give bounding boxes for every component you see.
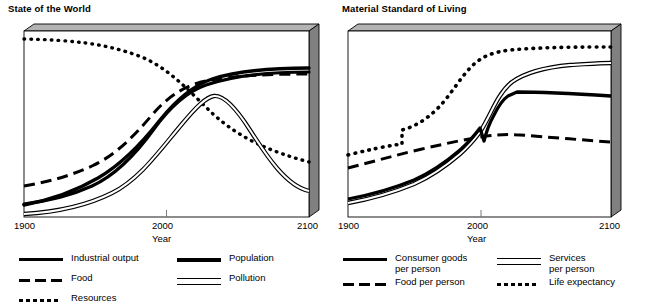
plot-box-top-face xyxy=(24,24,319,31)
legend-swatch-resources-icon xyxy=(18,294,64,305)
legend-item-population: Population xyxy=(176,252,326,272)
legend-swatch-population-icon xyxy=(176,254,222,266)
legend-label-pollution: Pollution xyxy=(229,272,265,283)
panel-state-of-the-world: State of the World xyxy=(0,0,334,305)
legend-item-services-per-person: Servicesper person xyxy=(496,252,661,276)
legend-swatch-life-expectancy-icon xyxy=(496,278,542,290)
plot-box-right-face xyxy=(611,24,621,217)
legend-right-col2: Servicesper person Life expectancy xyxy=(496,252,661,296)
legend-label-food: Food xyxy=(71,272,93,283)
legend-right: Consumer goodsper person Food per person… xyxy=(334,252,663,305)
plot-box-right-face xyxy=(309,24,319,217)
legend-label-resources: Resources xyxy=(71,292,116,303)
legend-label-population: Population xyxy=(229,252,274,263)
legend-swatch-food-per-person-icon xyxy=(342,278,388,290)
panel-material-standard-of-living: Material Standard of Living 1900 2000 21… xyxy=(334,0,663,305)
legend-left-col2: Population Pollution xyxy=(176,252,326,292)
legend-left: Industrial output Food Resources Populat… xyxy=(0,252,334,305)
xtick-label-1900-right: 1900 xyxy=(338,220,359,231)
legend-item-resources: Resources xyxy=(18,292,168,305)
legend-label-consumer-goods-line1: Consumer goods xyxy=(395,252,467,263)
legend-label-services-line2: per person xyxy=(549,263,594,274)
xtick-label-2000-right: 2000 xyxy=(467,220,488,231)
legend-item-industrial-output: Industrial output xyxy=(18,252,168,272)
legend-item-pollution: Pollution xyxy=(176,272,326,292)
xaxis-title-left: Year xyxy=(152,233,171,244)
legend-label-food-per-person: Food per person xyxy=(395,276,465,287)
xtick-label-1900-left: 1900 xyxy=(14,220,35,231)
world3-scenario-figure: State of the World xyxy=(0,0,663,305)
xtick-label-2000-left: 2000 xyxy=(152,220,173,231)
legend-label-consumer-goods-per-person: Consumer goodsper person xyxy=(395,252,467,274)
xtick-label-2100-left: 2100 xyxy=(297,220,318,231)
plot-box-top-face xyxy=(348,24,621,31)
xaxis-title-right: Year xyxy=(467,233,486,244)
legend-swatch-food-icon xyxy=(18,274,64,286)
legend-label-consumer-goods-line2: per person xyxy=(395,263,467,274)
legend-swatch-services-icon xyxy=(496,254,542,266)
legend-swatch-consumer-goods-icon xyxy=(342,254,388,266)
plot-right xyxy=(334,0,663,240)
legend-swatch-pollution-icon xyxy=(176,274,222,286)
legend-label-services-line1: Services xyxy=(549,252,585,263)
legend-item-consumer-goods-per-person: Consumer goodsper person xyxy=(342,252,507,276)
legend-item-food-per-person: Food per person xyxy=(342,276,507,296)
legend-label-life-expectancy: Life expectancy xyxy=(549,276,615,287)
legend-swatch-industrial-output-icon xyxy=(18,254,64,266)
plot-front-face xyxy=(24,31,309,217)
legend-item-food: Food xyxy=(18,272,168,292)
legend-left-col1: Industrial output Food Resources xyxy=(18,252,168,305)
legend-label-services-per-person: Servicesper person xyxy=(549,252,594,274)
legend-item-life-expectancy: Life expectancy xyxy=(496,276,661,296)
xtick-label-2100-right: 2100 xyxy=(599,220,620,231)
legend-right-col1: Consumer goodsper person Food per person xyxy=(342,252,507,296)
plot-left xyxy=(0,0,334,240)
legend-label-industrial-output: Industrial output xyxy=(71,252,139,263)
